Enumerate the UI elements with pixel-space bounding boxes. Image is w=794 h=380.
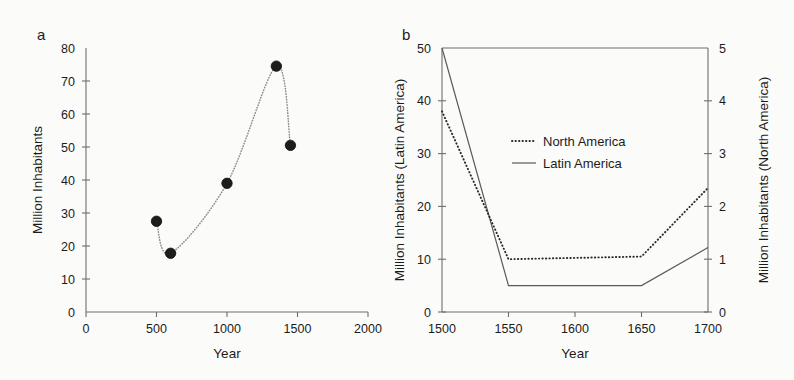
y-tick-label: 70 xyxy=(61,75,75,89)
y-tick-label: 60 xyxy=(61,108,75,122)
panel-a-trend-curve xyxy=(157,66,291,254)
panel-a-x-ticks: 0500100015002000 xyxy=(83,312,382,336)
panel-b-axes xyxy=(442,48,708,312)
panel-a-x-axis-label: Year xyxy=(213,346,241,361)
y-tick-label-left: 30 xyxy=(417,147,431,161)
y-tick-label-right: 3 xyxy=(719,147,726,161)
panel-b-x-ticks: 15001550160016501700 xyxy=(428,312,722,336)
x-tick-label: 1500 xyxy=(428,322,456,336)
panel-b-legend: North America Latin America xyxy=(512,134,626,171)
panel-b-plot: 01020304050 012345 15001550160016501700 … xyxy=(390,0,794,380)
x-tick-label: 1600 xyxy=(561,322,589,336)
y-tick-label: 40 xyxy=(61,174,75,188)
y-tick-label: 10 xyxy=(61,273,75,287)
data-point-marker xyxy=(271,61,281,71)
y-tick-label: 80 xyxy=(61,42,75,56)
legend-label-latin-america: Latin America xyxy=(543,156,623,171)
panel-a-data-points xyxy=(151,61,295,259)
legend-label-north-america: North America xyxy=(543,134,626,149)
x-tick-label: 500 xyxy=(146,322,167,336)
y-tick-label-right: 4 xyxy=(719,94,726,108)
data-point-marker xyxy=(222,178,232,188)
y-tick-label-right: 0 xyxy=(719,306,726,320)
x-tick-label: 1000 xyxy=(213,322,241,336)
x-tick-label: 2000 xyxy=(354,322,382,336)
panel-a-y-axis-label: Million Inhabitants xyxy=(30,126,45,234)
y-tick-label: 50 xyxy=(61,141,75,155)
panel-b: b 01020304050 012345 1500155016001650170… xyxy=(390,0,794,380)
y-tick-label-right: 1 xyxy=(719,253,726,267)
panel-a-plot: 01020304050607080 0500100015002000 Year … xyxy=(0,0,390,380)
figure-container: a 01020304050607080 0500100015002000 Yea… xyxy=(0,0,794,380)
y-tick-label-right: 5 xyxy=(719,42,726,56)
data-point-marker xyxy=(165,248,175,258)
x-tick-label: 1500 xyxy=(284,322,312,336)
y-tick-label-left: 50 xyxy=(417,42,431,56)
y-tick-label: 30 xyxy=(61,207,75,221)
panel-b-y-axis-label-left: Million Inhabitants (Latin America) xyxy=(392,79,407,282)
y-tick-label-left: 10 xyxy=(417,253,431,267)
x-tick-label: 0 xyxy=(83,322,90,336)
panel-a: a 01020304050607080 0500100015002000 Yea… xyxy=(0,0,390,380)
panel-b-y-ticks-right: 012345 xyxy=(704,42,726,320)
y-tick-label: 20 xyxy=(61,240,75,254)
panel-b-y-axis-label-right: Million Inhabitants (North America) xyxy=(756,77,771,283)
x-tick-label: 1650 xyxy=(628,322,656,336)
data-point-marker xyxy=(285,140,295,150)
data-point-marker xyxy=(151,216,161,226)
y-tick-label-left: 0 xyxy=(424,306,431,320)
x-tick-label: 1550 xyxy=(495,322,523,336)
y-tick-label-left: 20 xyxy=(417,200,431,214)
x-tick-label: 1700 xyxy=(694,322,722,336)
y-tick-label: 0 xyxy=(68,306,75,320)
y-tick-label-right: 2 xyxy=(719,200,726,214)
panel-b-x-axis-label: Year xyxy=(561,346,589,361)
y-tick-label-left: 40 xyxy=(417,94,431,108)
